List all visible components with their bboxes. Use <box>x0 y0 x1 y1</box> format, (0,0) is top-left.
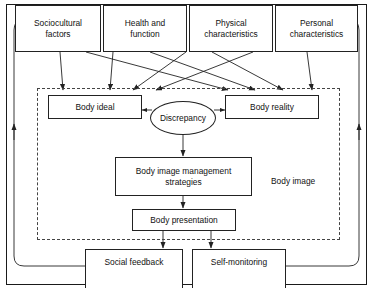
node-body-presentation[interactable]: Body presentation <box>132 209 236 231</box>
node-body-ideal[interactable]: Body ideal <box>48 95 142 119</box>
body-image-region-label: Body image <box>271 176 315 186</box>
node-personal-characteristics[interactable]: Personal characteristics <box>275 5 358 52</box>
diagram-canvas: Body image Sociocultural factors Health … <box>0 0 373 288</box>
node-health-and-function-label: Health and function <box>123 18 168 39</box>
node-body-presentation-label: Body presentation <box>148 215 220 226</box>
node-social-feedback[interactable]: Social feedback <box>85 249 183 288</box>
node-body-image-management-strategies[interactable]: Body image management strategies <box>115 157 252 196</box>
node-body-reality[interactable]: Body reality <box>225 95 319 119</box>
node-personal-characteristics-label: Personal characteristics <box>288 18 346 39</box>
node-physical-characteristics-label: Physical characteristics <box>202 18 260 39</box>
node-sociocultural-factors-label: Sociocultural factors <box>32 18 84 39</box>
node-social-feedback-label: Social feedback <box>102 257 165 268</box>
node-strategies-label: Body image management strategies <box>134 166 233 187</box>
node-self-monitoring-label: Self-monitoring <box>209 257 269 268</box>
node-discrepancy[interactable]: Discrepancy <box>150 101 216 135</box>
node-sociocultural-factors[interactable]: Sociocultural factors <box>15 5 101 52</box>
node-discrepancy-label: Discrepancy <box>158 113 208 123</box>
node-self-monitoring[interactable]: Self-monitoring <box>192 249 286 288</box>
node-body-ideal-label: Body ideal <box>73 102 116 113</box>
node-health-and-function[interactable]: Health and function <box>103 5 187 52</box>
node-body-reality-label: Body reality <box>248 102 296 113</box>
node-physical-characteristics[interactable]: Physical characteristics <box>189 5 273 52</box>
